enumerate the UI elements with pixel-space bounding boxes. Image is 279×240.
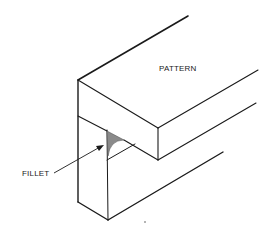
fillet-leader-line <box>54 147 100 173</box>
bottom-long-edge <box>108 152 223 220</box>
stray-mark <box>144 221 146 223</box>
pattern-top-front-edge <box>78 80 158 128</box>
pattern-upper-right-edge <box>158 70 258 128</box>
bottom-left-edge <box>78 202 108 220</box>
flange-top-edge <box>78 116 107 131</box>
pattern-label: PATTERN <box>159 64 197 73</box>
fillet-label: FILLET <box>22 169 49 178</box>
pattern-lower-front-edge <box>124 140 158 160</box>
pattern-lower-right-edge <box>158 103 256 160</box>
pattern-fillet-drawing <box>0 0 279 240</box>
fillet-arrowhead-icon <box>96 145 104 151</box>
